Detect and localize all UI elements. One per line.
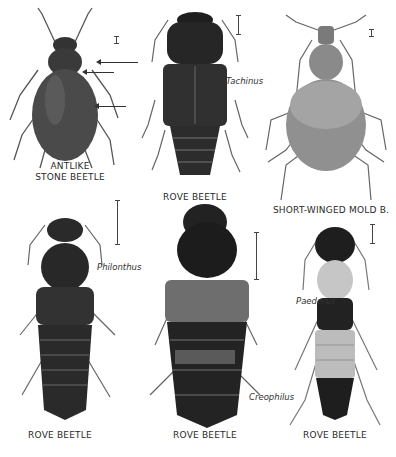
scale-bar (238, 15, 239, 35)
scale-bar (372, 224, 373, 244)
rove-beetle-tachinus-illustration (130, 0, 260, 175)
scale-bar (116, 36, 117, 44)
rove-beetle-philonthus-illustration (10, 215, 120, 425)
scale-bar (256, 232, 257, 280)
figure-label: ROVE BEETLE (10, 430, 110, 441)
figure-label: ANTLIKE STONE BEETLE (20, 161, 120, 183)
genus-label: Paederus (296, 296, 336, 306)
scale-bar (371, 29, 372, 37)
rove-beetle-creophilus-illustration (145, 200, 265, 430)
figure-label: ROVE BEETLE (280, 430, 390, 441)
beetle-illustration-plate: ANTLIKE STONE BEETLE Tachinus ROVE BEETL… (0, 0, 396, 457)
rove-beetle-paederus-illustration (285, 220, 395, 430)
scale-bar (117, 200, 118, 245)
genus-label: Philonthus (97, 262, 141, 272)
figure-label: ROVE BEETLE (150, 430, 260, 441)
pointer-arrow (86, 72, 114, 73)
pointer-arrow (98, 106, 126, 107)
figure-label: SHORT-WINGED MOLD B. (266, 205, 396, 216)
short-winged-mold-beetle-illustration (256, 0, 396, 200)
antlike-stone-beetle-illustration (0, 0, 130, 170)
